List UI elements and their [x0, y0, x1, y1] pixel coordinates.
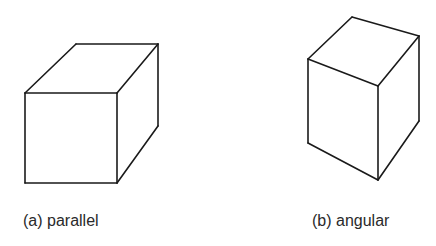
cube-edge: [25, 44, 76, 93]
cube-edge: [378, 121, 419, 180]
parallel-projection-cube: [25, 44, 158, 183]
cube-drawings: [0, 0, 436, 246]
caption-parallel: (a) parallel: [23, 213, 99, 229]
cube-edge: [117, 44, 158, 93]
cube-edge: [352, 17, 419, 36]
cube-edge: [117, 126, 158, 183]
angular-projection-cube: [308, 17, 419, 180]
cube-edge: [378, 36, 419, 86]
cube-edge: [308, 17, 352, 59]
cube-edge: [308, 143, 378, 180]
caption-angular: (b) angular: [312, 213, 389, 229]
cube-edge: [308, 59, 378, 86]
projection-diagram: (a) parallel (b) angular: [0, 0, 436, 246]
